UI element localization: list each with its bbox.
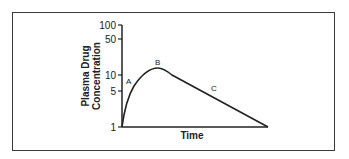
annotation-c: C: [211, 84, 217, 93]
pk-chart: 100 50 10 5 1 Plasma Drug Concentration …: [0, 0, 349, 159]
y-tick-label: 10: [105, 70, 117, 81]
y-tick-label: 50: [105, 34, 117, 45]
annotation-b: B: [155, 58, 160, 67]
annotation-a: A: [126, 77, 132, 86]
y-tick-label: 5: [110, 86, 116, 97]
concentration-curve: [122, 68, 268, 127]
y-axis-title-line2: Concentration: [91, 42, 102, 110]
y-tick-label: 100: [99, 20, 116, 31]
y-tick-label: 1: [110, 122, 116, 133]
x-axis-title: Time: [180, 130, 204, 141]
y-axis-title-line1: Plasma Drug: [80, 45, 91, 106]
